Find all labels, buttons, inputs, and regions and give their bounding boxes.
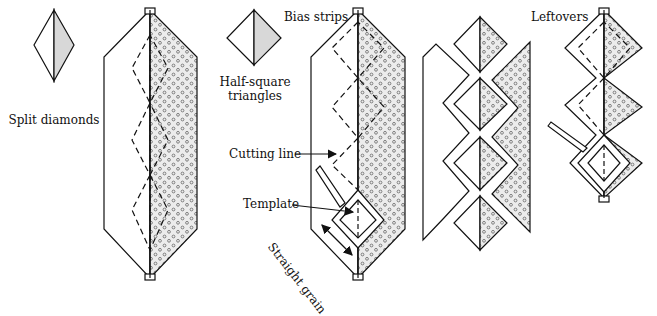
leftovers-label: Leftovers xyxy=(531,10,588,24)
half-square-label-line2: triangles xyxy=(218,89,292,103)
split-diamonds-label: Split diamonds xyxy=(6,113,102,127)
half-square-label-line1: Half-square xyxy=(218,75,292,89)
cut-diamonds-panel xyxy=(423,17,530,250)
cutting-line-label: Cutting line xyxy=(229,147,301,161)
bias-strip-panel-2 xyxy=(292,8,405,280)
half-square-triangle-icon xyxy=(227,10,281,65)
leftovers-panel xyxy=(548,8,642,202)
template-label: Template xyxy=(243,197,299,211)
bias-strips-label: Bias strips xyxy=(284,10,348,24)
bias-strip-panel-1 xyxy=(104,8,197,280)
split-diamond-icon xyxy=(34,10,74,81)
